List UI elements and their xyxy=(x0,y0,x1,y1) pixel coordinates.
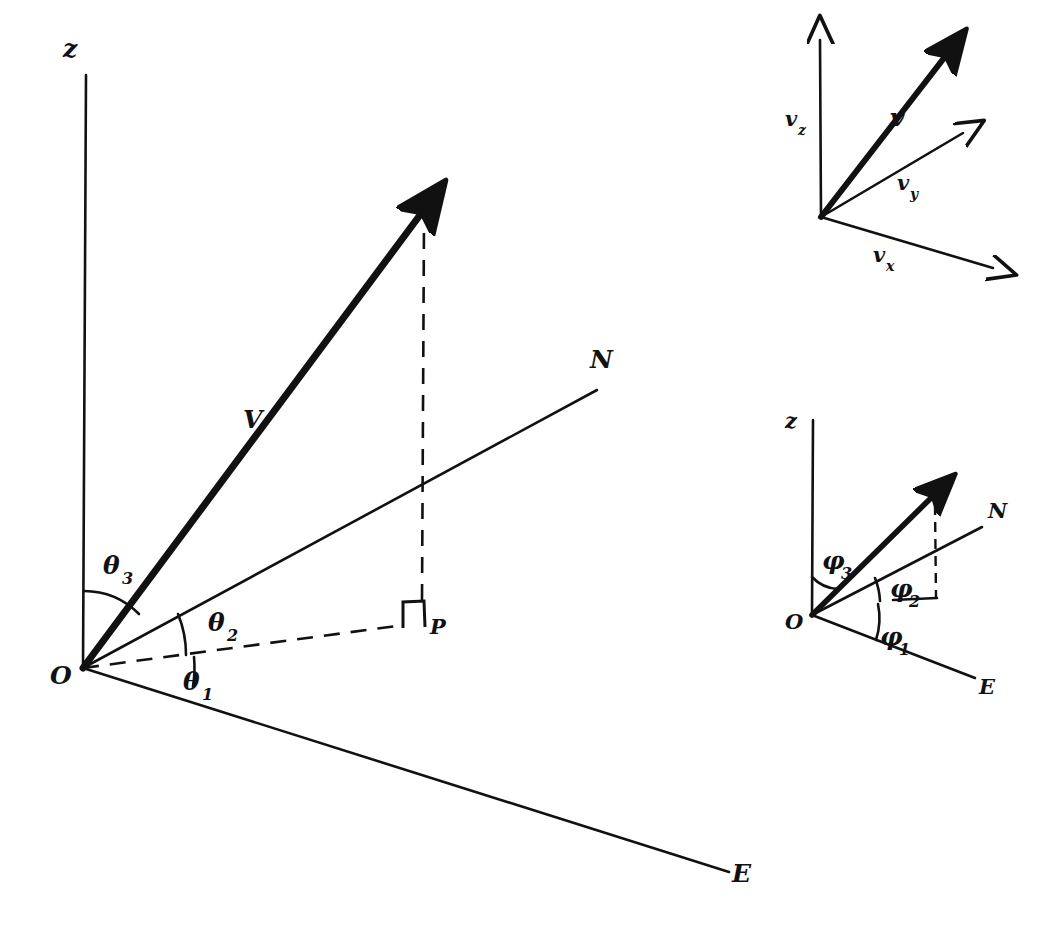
inset-bottom-n-label: N xyxy=(987,498,1008,523)
svg-text:v: v xyxy=(873,242,886,267)
main-z-label: z xyxy=(62,34,78,63)
canvas-background xyxy=(0,0,1063,932)
svg-text:3: 3 xyxy=(841,564,852,583)
svg-text:y: y xyxy=(909,186,919,202)
svg-text:θ: θ xyxy=(183,667,200,696)
inset-bottom-z-label: z xyxy=(784,408,798,433)
figure-root: z N E O V P θ 3 θ 2 θ 1 xyxy=(0,0,1063,932)
main-e-label: E xyxy=(731,859,752,888)
svg-text:θ: θ xyxy=(103,551,120,580)
svg-text:θ: θ xyxy=(208,608,225,637)
inset-bottom-z-axis xyxy=(812,420,813,615)
inset-top-vz-arrow xyxy=(820,40,821,217)
diagram-canvas: z N E O V P θ 3 θ 2 θ 1 xyxy=(0,0,1063,932)
inset-bottom-e-label: E xyxy=(978,674,996,699)
main-vector-label: V xyxy=(243,405,265,434)
inset-bottom-origin-label: O xyxy=(785,609,804,634)
svg-text:z: z xyxy=(797,122,807,138)
svg-text:x: x xyxy=(885,258,895,274)
inset-top-v-label: v xyxy=(890,103,905,132)
svg-text:v: v xyxy=(785,106,798,131)
svg-text:2: 2 xyxy=(226,626,238,645)
svg-text:v: v xyxy=(897,170,910,195)
main-point-p-label: P xyxy=(429,614,447,639)
main-origin-label: O xyxy=(50,661,72,690)
svg-text:3: 3 xyxy=(122,569,133,588)
svg-text:1: 1 xyxy=(202,685,213,704)
svg-text:2: 2 xyxy=(908,592,920,611)
main-n-label: N xyxy=(589,345,614,374)
svg-text:1: 1 xyxy=(899,640,910,659)
